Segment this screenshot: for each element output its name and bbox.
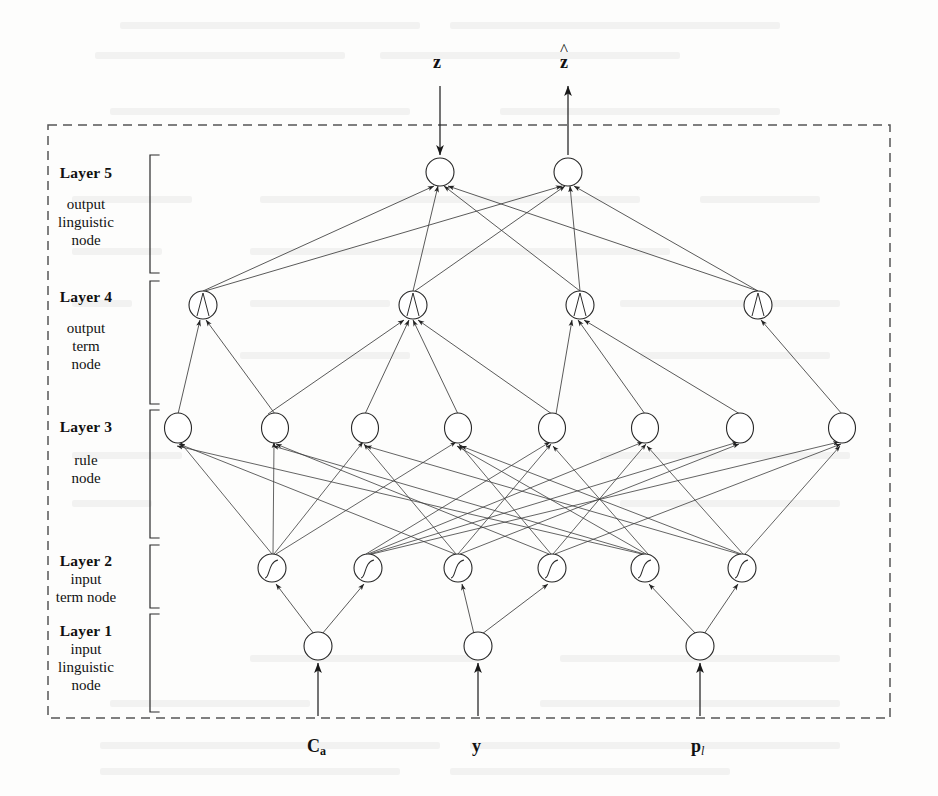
node-layer4-2 — [566, 291, 594, 319]
layer1-desc-line3: node — [28, 677, 144, 695]
input-label-pl-subscript: l — [701, 744, 704, 758]
layer2-nodes — [258, 554, 756, 582]
layer3-desc-line2: node — [28, 470, 144, 488]
node-layer5-1 — [554, 158, 582, 186]
edges-layer4-to-layer5 — [203, 186, 758, 291]
node-layer2-2 — [444, 554, 472, 582]
input-label-ca-subscript: a — [320, 744, 326, 758]
layer-label-layer5: Layer 5 output linguistic node — [28, 164, 144, 249]
edges-layer2-to-layer3 — [177, 442, 841, 554]
node-layer3-1 — [262, 413, 289, 443]
input-label-y: y — [472, 736, 481, 757]
edges-layer3-to-layer4 — [178, 320, 842, 414]
node-layer4-0 — [189, 291, 217, 319]
input-label-z-text: z — [433, 52, 441, 72]
output-label-z-hat: ^ z — [560, 52, 568, 73]
node-layer1-2 — [686, 632, 714, 660]
input-label-ca-text: C — [307, 736, 320, 756]
node-layer1-1 — [464, 632, 492, 660]
layer4-title: Layer 4 — [28, 288, 144, 306]
edges-layer1-to-layer2 — [276, 584, 738, 634]
node-layer3-0 — [165, 413, 192, 443]
layer5-nodes — [426, 158, 582, 186]
layer-brackets — [150, 155, 159, 712]
node-layer3-3 — [445, 413, 472, 443]
layer1-nodes — [304, 632, 714, 660]
layer5-desc-line3: node — [28, 232, 144, 250]
node-layer1-0 — [304, 632, 332, 660]
node-layer2-3 — [538, 554, 566, 582]
layer4-desc-line1: output — [28, 320, 144, 338]
input-label-z: z — [433, 52, 441, 73]
layer2-title: Layer 2 — [24, 552, 148, 570]
layer4-nodes — [189, 291, 772, 319]
layer-label-layer1: Layer 1 input linguistic node — [28, 622, 144, 694]
layer1-title: Layer 1 — [28, 622, 144, 640]
layer-label-layer2: Layer 2 input term node — [24, 552, 148, 607]
node-layer2-5 — [728, 554, 756, 582]
layer5-title: Layer 5 — [28, 164, 144, 182]
node-layer3-4 — [539, 413, 566, 443]
layer4-desc-line2: term — [28, 338, 144, 356]
node-layer3-5 — [632, 413, 659, 443]
layer1-desc-line2: linguistic — [28, 659, 144, 677]
layer5-desc-line1: output — [28, 196, 144, 214]
z-hat-group: ^ z — [560, 52, 568, 73]
input-label-y-text: y — [472, 736, 481, 756]
input-label-pl-text: p — [691, 736, 701, 756]
node-layer2-4 — [631, 554, 659, 582]
layer-label-layer3: Layer 3 rule node — [28, 418, 144, 488]
layer2-desc-line2: term node — [24, 589, 148, 607]
node-layer4-1 — [399, 291, 427, 319]
node-layer4-3 — [744, 291, 772, 319]
node-layer3-2 — [352, 413, 379, 443]
node-layer5-0 — [426, 158, 454, 186]
input-label-pl: pl — [691, 736, 704, 759]
input-label-ca: Ca — [307, 736, 326, 759]
layer3-title: Layer 3 — [28, 418, 144, 436]
layer4-desc-line3: node — [28, 356, 144, 374]
node-layer2-1 — [354, 554, 382, 582]
node-layer2-0 — [258, 554, 286, 582]
node-layer3-6 — [727, 413, 754, 443]
hat-accent-icon: ^ — [560, 40, 568, 60]
node-layer3-7 — [829, 413, 856, 443]
layer3-desc-line1: rule — [28, 452, 144, 470]
layer3-nodes — [165, 413, 856, 443]
layer-label-layer4: Layer 4 output term node — [28, 288, 144, 373]
layer5-desc-line2: linguistic — [28, 214, 144, 232]
layer2-desc-line1: input — [24, 571, 148, 589]
figure-root: Layer 5 output linguistic node Layer 4 o… — [0, 0, 938, 796]
io-arrows — [318, 86, 700, 716]
layer1-desc-line1: input — [28, 641, 144, 659]
